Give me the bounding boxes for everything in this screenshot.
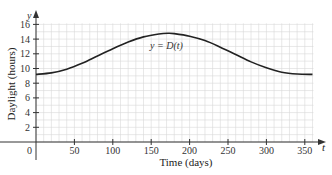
x-tick-label: 200: [182, 145, 197, 156]
x-tick-label: 50: [69, 145, 79, 156]
daylight-chart: 50100150200250300350246810121416 y = D(t…: [0, 0, 332, 175]
y-tick-label: 8: [25, 78, 30, 89]
y-tick-label: 12: [20, 48, 30, 59]
x-tick-label: 250: [221, 145, 236, 156]
y-tick-label: 4: [25, 107, 30, 118]
y-tick-label: 10: [20, 63, 30, 74]
origin-label: 0: [27, 145, 32, 156]
x-axis-symbol: t: [322, 141, 326, 153]
axes: [0, 10, 326, 160]
x-tick-label: 350: [297, 145, 312, 156]
y-tick-label: 2: [25, 122, 30, 133]
x-tick-label: 100: [105, 145, 120, 156]
x-axis-title: Time (days): [159, 156, 212, 169]
y-axis-symbol: y: [26, 10, 32, 21]
y-tick-label: 14: [20, 34, 30, 45]
y-axis-title: Daylight (hours): [5, 47, 18, 120]
curve-label: y = D(t): [149, 40, 184, 52]
x-tick-label: 150: [144, 145, 159, 156]
y-tick-label: 6: [25, 92, 30, 103]
x-tick-label: 300: [259, 145, 274, 156]
y-axis-arrow-icon: [33, 10, 39, 18]
